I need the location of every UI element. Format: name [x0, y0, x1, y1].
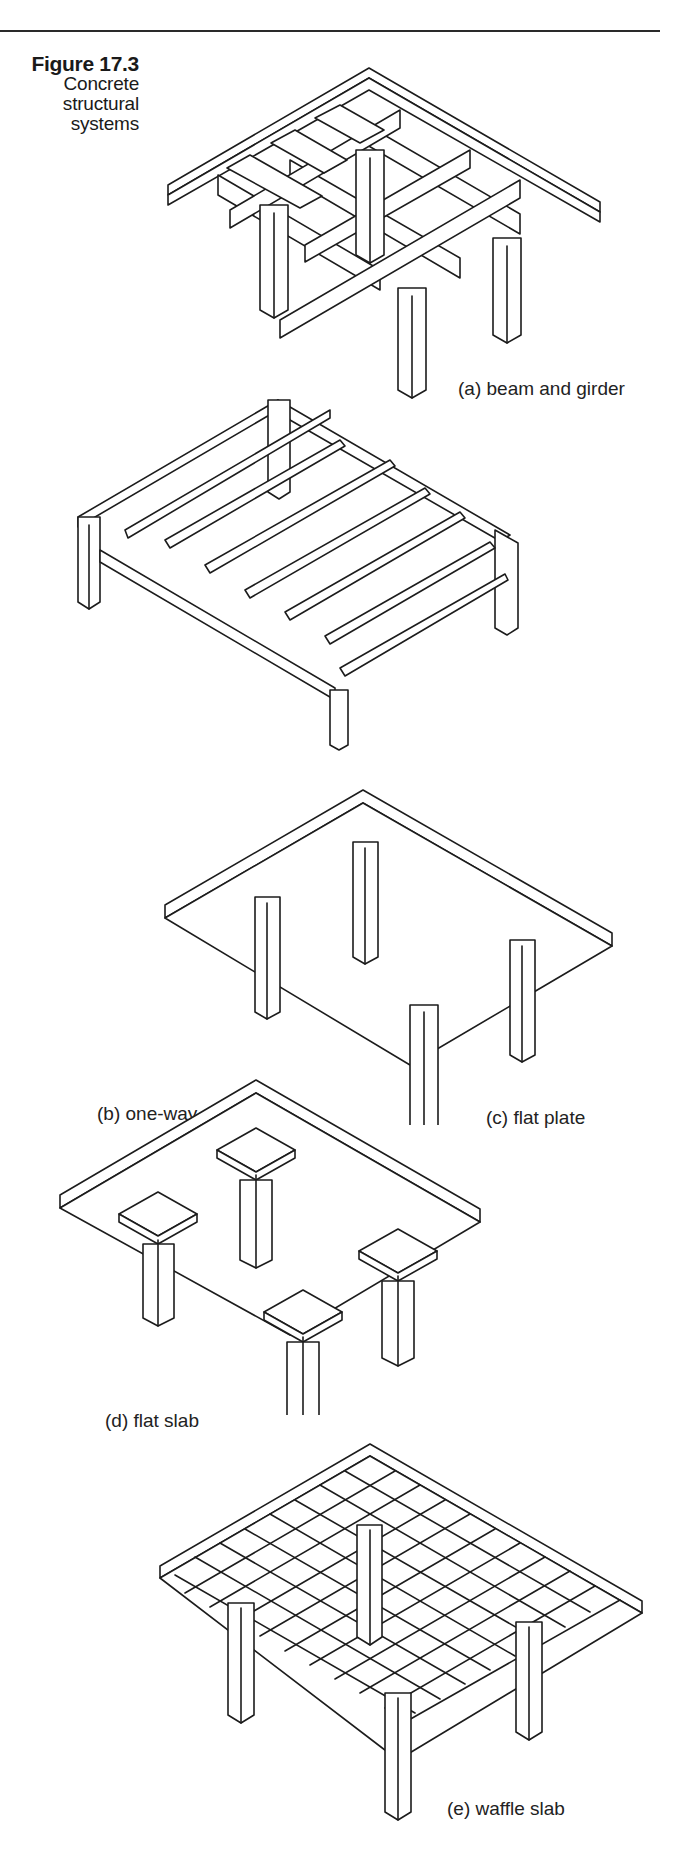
flat-slab-drawing	[0, 1075, 680, 1415]
panel-beam-and-girder: (a) beam and girder	[0, 60, 680, 400]
beam-and-girder-drawing	[0, 60, 680, 400]
panel-flat-slab: (d) flat slab	[0, 1075, 680, 1415]
panel-label-e: (e) waffle slab	[447, 1798, 565, 1820]
panel-label-d: (d) flat slab	[105, 1410, 199, 1432]
waffle-slab-drawing	[0, 1440, 680, 1869]
panel-waffle-slab: (e) waffle slab	[0, 1440, 680, 1869]
one-way-pan-joists-drawing	[0, 395, 680, 755]
flat-plate-drawing	[0, 785, 680, 1125]
panel-one-way-pan-joists: (b) one-way pan joists	[0, 395, 680, 755]
panel-flat-plate: (c) flat plate	[0, 785, 680, 1125]
header-rule	[0, 30, 660, 32]
